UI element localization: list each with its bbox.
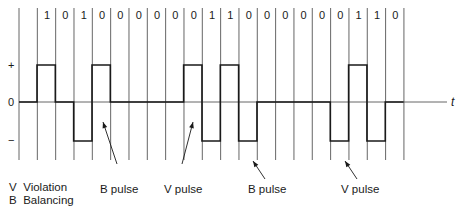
bit-label: 0 <box>154 9 160 21</box>
bit-label: 0 <box>62 9 68 21</box>
bit-label: 0 <box>117 9 123 21</box>
level-label: + <box>8 59 14 71</box>
bit-label: 0 <box>99 9 105 21</box>
bit-label: 0 <box>264 9 270 21</box>
bit-label: 1 <box>209 9 215 21</box>
bit-label: 1 <box>356 9 362 21</box>
legend: V Violation B Balancing <box>9 181 74 207</box>
level-label: − <box>8 134 14 146</box>
annotation-arrow-line <box>103 122 117 164</box>
time-axis-label: t <box>451 95 455 109</box>
bit-label: 0 <box>172 9 178 21</box>
arrowhead-icon <box>253 161 258 167</box>
bit-label: 1 <box>81 9 87 21</box>
bit-label: 0 <box>392 9 398 21</box>
bit-label: 0 <box>246 9 252 21</box>
legend-text: Violation <box>23 181 67 193</box>
legend-item-violation: V Violation <box>9 181 74 194</box>
legend-key: B <box>9 194 20 207</box>
bit-label: 1 <box>44 9 50 21</box>
level-label: 0 <box>8 96 14 108</box>
annotation-label: V pulse <box>341 183 379 195</box>
bit-label: 0 <box>337 9 343 21</box>
bit-label: 1 <box>374 9 380 21</box>
diagram-stage: t+0−10100000011000000110B pulseV pulseB … <box>0 0 461 217</box>
legend-item-balancing: B Balancing <box>9 194 74 207</box>
arrowhead-icon <box>103 122 108 128</box>
annotation-label: B pulse <box>248 183 286 195</box>
bit-label: 1 <box>227 9 233 21</box>
bit-label: 0 <box>191 9 197 21</box>
arrowhead-icon <box>345 161 350 167</box>
annotation-label: B pulse <box>100 183 138 195</box>
bit-label: 0 <box>282 9 288 21</box>
bit-label: 0 <box>301 9 307 21</box>
bit-label: 0 <box>319 9 325 21</box>
legend-text: Balancing <box>23 194 74 206</box>
arrowhead-icon <box>189 122 194 128</box>
bit-label: 0 <box>136 9 142 21</box>
annotation-label: V pulse <box>164 183 202 195</box>
ami-waveform <box>19 65 404 141</box>
legend-key: V <box>9 181 20 194</box>
